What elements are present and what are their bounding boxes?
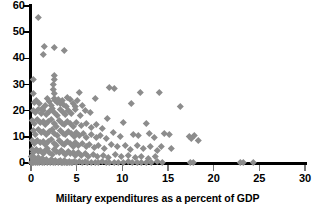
x-axis-title: Military expenditures as a percent of GD… — [0, 192, 315, 204]
data-point — [159, 159, 165, 165]
data-point — [104, 115, 110, 121]
data-point — [177, 103, 183, 109]
data-point — [101, 145, 107, 151]
data-point — [117, 133, 123, 139]
data-point — [30, 90, 36, 96]
data-point — [143, 120, 149, 126]
data-point — [120, 119, 126, 125]
data-point — [108, 141, 114, 147]
data-point — [41, 51, 47, 57]
data-point — [30, 76, 36, 82]
plot-area — [31, 6, 305, 163]
x-axis-tick — [213, 165, 215, 171]
data-point — [136, 133, 142, 139]
x-axis-tick-label: 25 — [244, 173, 274, 184]
y-axis-tick-label: 60 — [1, 0, 25, 11]
y-axis-tick-label: 10 — [1, 131, 25, 142]
y-axis-tick-label: 50 — [1, 26, 25, 37]
y-axis-tick-label: 40 — [1, 52, 25, 63]
data-point — [77, 112, 83, 118]
data-point — [110, 129, 116, 135]
data-point — [112, 151, 118, 157]
x-axis-tick — [304, 165, 306, 171]
data-point — [51, 44, 57, 50]
x-axis-tick-label: 20 — [199, 173, 229, 184]
data-point — [76, 89, 82, 95]
y-axis-tick-label: 0 — [1, 157, 25, 168]
x-axis-tick — [76, 165, 78, 171]
data-point — [61, 47, 67, 53]
x-axis-tick — [167, 165, 169, 171]
data-point — [137, 89, 143, 95]
data-point — [166, 131, 172, 137]
data-point — [140, 145, 146, 151]
x-axis-tick — [30, 165, 32, 171]
data-point — [111, 85, 117, 91]
scatter-chart: 0102030405060 051015202530 Military expe… — [0, 0, 315, 213]
x-axis-tick-label: 5 — [62, 173, 92, 184]
data-point — [36, 15, 42, 21]
data-point — [128, 100, 134, 106]
x-axis-tick-label: 10 — [107, 173, 137, 184]
x-axis-tick-label: 15 — [153, 173, 183, 184]
data-point — [151, 134, 157, 140]
data-point — [87, 110, 93, 116]
x-axis-tick-label: 0 — [16, 173, 46, 184]
data-point — [168, 145, 174, 151]
data-point — [147, 143, 153, 149]
y-axis-tick-label: 20 — [1, 105, 25, 116]
x-axis-tick-label: 30 — [290, 173, 315, 184]
data-point — [114, 144, 120, 150]
data-point — [195, 137, 201, 143]
data-point — [92, 95, 98, 101]
data-point — [41, 43, 47, 49]
x-axis-tick — [259, 165, 261, 171]
y-axis-tick-label: 30 — [1, 79, 25, 90]
data-point — [156, 89, 162, 95]
data-point — [103, 135, 109, 141]
